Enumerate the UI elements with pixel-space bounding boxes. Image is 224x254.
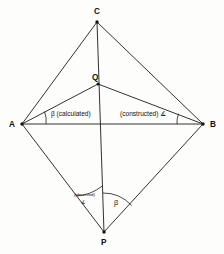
vertex-dot-p bbox=[102, 230, 105, 233]
figure-vertex-dots bbox=[20, 20, 204, 233]
vertex-label-q: Q bbox=[92, 73, 99, 82]
vertex-label-b: B bbox=[210, 120, 216, 129]
edge-c-p bbox=[97, 22, 104, 232]
vertex-label-c: C bbox=[94, 7, 100, 16]
geometry-figure: C Q A B P β (calculated) (constructed) ∡… bbox=[0, 0, 224, 254]
edge-a-c bbox=[22, 22, 97, 124]
vertex-dot-c bbox=[95, 20, 98, 23]
edge-c-b bbox=[97, 22, 203, 124]
edge-q-b bbox=[98, 84, 203, 124]
figure-vertex-labels: C Q A B P bbox=[9, 7, 216, 247]
vertex-label-p: P bbox=[101, 238, 107, 247]
annotation-calculated: β (calculated) bbox=[51, 110, 91, 118]
annotation-beta-at-p: β bbox=[114, 198, 118, 207]
edge-a-p bbox=[22, 124, 104, 232]
figure-annotations: β (calculated) (constructed) ∡ (observed… bbox=[51, 110, 166, 207]
angle-symbol-at-p-left: ∡ bbox=[81, 199, 85, 205]
vertex-label-a: A bbox=[9, 120, 15, 129]
figure-edges bbox=[22, 22, 203, 232]
annotation-constructed: (constructed) ∡ bbox=[120, 110, 166, 118]
edge-a-q bbox=[22, 84, 98, 124]
edge-p-b bbox=[104, 124, 203, 232]
angle-arc-at-a bbox=[45, 112, 47, 125]
vertex-dot-a bbox=[20, 122, 23, 125]
angle-arc-at-b bbox=[177, 114, 179, 124]
figure-canvas: C Q A B P β (calculated) (constructed) ∡… bbox=[0, 0, 224, 254]
vertex-dot-q bbox=[97, 83, 100, 86]
vertex-dot-b bbox=[201, 122, 204, 125]
figure-angle-arcs bbox=[45, 112, 179, 206]
annotation-observed: (observed) bbox=[74, 192, 96, 197]
